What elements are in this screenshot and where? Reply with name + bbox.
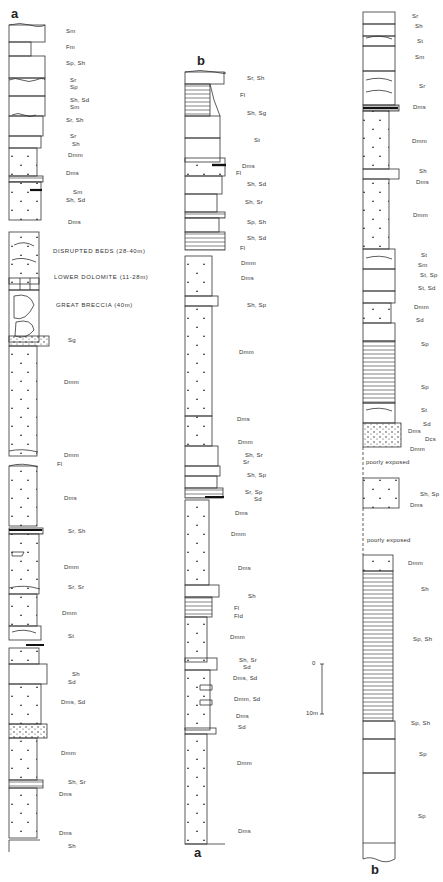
- facies-label: Sp, Sh: [413, 636, 432, 642]
- facies-label: Dmm: [64, 564, 79, 570]
- facies-label: Sp: [419, 751, 427, 757]
- facies-label: Sm: [418, 262, 427, 268]
- facies-label: Sh: [72, 141, 80, 147]
- facies-label: Sp: [421, 341, 429, 347]
- facies-label: Sm: [70, 104, 79, 110]
- facies-label: Dmm: [61, 750, 76, 756]
- facies-label: Dms: [64, 495, 77, 501]
- facies-label: Fl: [236, 170, 241, 176]
- facies-label: GREAT BRECCIA (40m): [56, 302, 133, 308]
- facies-label: Dms: [410, 502, 423, 508]
- facies-label: Dmm: [239, 349, 254, 355]
- facies-label: Dmm: [64, 452, 79, 458]
- facies-label: Sm: [66, 28, 75, 34]
- facies-label: Sd: [423, 421, 431, 427]
- facies-label: Dms: [242, 163, 255, 169]
- facies-label: St: [254, 137, 260, 143]
- facies-label: Dms: [59, 830, 72, 836]
- facies-label: Sp: [70, 84, 78, 90]
- facies-label: Sp, Sh: [66, 60, 85, 66]
- facies-label: Dms, Sd: [61, 699, 85, 705]
- facies-label: Dcs: [425, 436, 436, 442]
- facies-label: Sd: [238, 724, 246, 730]
- facies-label: Sd: [416, 317, 424, 323]
- facies-label: Sh: [415, 23, 423, 29]
- facies-label: St: [421, 252, 427, 258]
- facies-label: Fl: [240, 92, 245, 98]
- facies-label: St, Sp: [420, 272, 438, 278]
- scale-bar-top-label: 0: [312, 660, 316, 666]
- facies-label: Sr, Sh: [247, 75, 265, 81]
- facies-label: Sr: [243, 459, 249, 465]
- scale-bar: [320, 664, 324, 714]
- facies-label: Sp: [421, 384, 429, 390]
- facies-label: Dmm, Sd: [234, 696, 260, 702]
- facies-label: Dms: [235, 510, 248, 516]
- facies-label: Fld: [234, 613, 243, 619]
- facies-label: Sh: [68, 843, 76, 849]
- facies-label: Sh: [72, 671, 80, 677]
- facies-label: Fl: [240, 245, 245, 251]
- facies-label: Sd: [68, 679, 76, 685]
- facies-label: Sh: [421, 586, 429, 592]
- facies-label: Sp, Sh: [411, 720, 430, 726]
- facies-label: Dmm: [68, 152, 83, 158]
- scale-bar-bottom-label: 10m: [306, 710, 318, 716]
- facies-label: DISRUPTED BEDS (28-40m): [53, 248, 145, 254]
- facies-label: Sr, Sh: [66, 117, 84, 123]
- facies-label: Dms, Sd: [233, 675, 257, 681]
- facies-label: Sr, Sr: [68, 584, 84, 590]
- facies-label: Dms: [237, 416, 250, 422]
- facies-label: Sh, Sp: [247, 302, 266, 308]
- facies-label: Dmm: [62, 610, 77, 616]
- facies-label: Sp, Sh: [247, 219, 266, 225]
- facies-label: Sh, Sd: [247, 181, 266, 187]
- facies-label: Sh, Sr: [68, 779, 86, 785]
- facies-label: Sm: [73, 189, 82, 195]
- facies-label: St: [421, 407, 427, 413]
- column-a-log: [9, 24, 49, 853]
- facies-label: Sh, Sr: [239, 657, 257, 663]
- facies-label: Dmm: [414, 304, 429, 310]
- facies-label: Sm: [415, 54, 424, 60]
- facies-label: Dms: [236, 713, 249, 719]
- facies-label: poorly exposed: [366, 459, 410, 465]
- facies-label: Sd: [243, 664, 251, 670]
- facies-label: Dmm: [238, 439, 253, 445]
- facies-label: Sp: [418, 813, 426, 819]
- facies-label: Dms: [68, 219, 81, 225]
- facies-label: Dmm: [237, 760, 252, 766]
- facies-label: Sh: [248, 593, 256, 599]
- facies-label: Dmm: [413, 212, 428, 218]
- facies-label: Fm: [66, 44, 75, 50]
- facies-label: Sr: [412, 13, 418, 19]
- column-b-log: [185, 71, 226, 845]
- facies-label: Sh, Sr: [245, 452, 263, 458]
- facies-label: Dmm: [64, 379, 79, 385]
- facies-label: Dms: [238, 828, 251, 834]
- facies-label: Dmm: [408, 560, 423, 566]
- facies-label: Sh, Sg: [247, 110, 266, 116]
- facies-label: St: [68, 633, 74, 639]
- column-b-right-log: [363, 12, 401, 862]
- facies-label: Sh: [419, 168, 427, 174]
- facies-label: Dms: [66, 170, 79, 176]
- facies-label: Sr: [419, 83, 425, 89]
- facies-label: Sh, Sr: [245, 199, 263, 205]
- facies-label: St, Sd: [418, 285, 436, 291]
- facies-label: Sh, Sd: [70, 97, 89, 103]
- facies-label: Sr: [70, 133, 76, 139]
- facies-label: Dmm: [241, 260, 256, 266]
- facies-label: LOWER DOLOMITE (11-28m): [54, 274, 148, 280]
- facies-label: Dms: [238, 565, 251, 571]
- facies-label: Sh, Sd: [66, 197, 85, 203]
- facies-label: Fl: [234, 605, 239, 611]
- facies-label: Sr, Sh: [68, 528, 86, 534]
- facies-label: Dms: [416, 179, 429, 185]
- facies-label: Dms: [413, 104, 426, 110]
- facies-label: Dms: [241, 275, 254, 281]
- facies-label: Dmm: [412, 138, 427, 144]
- facies-label: Sh, Sd: [247, 235, 266, 241]
- facies-label: Dmm: [231, 531, 246, 537]
- facies-label: Sd: [254, 496, 262, 502]
